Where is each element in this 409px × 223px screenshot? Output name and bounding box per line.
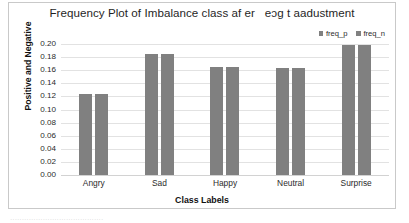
y-axis-tick-label: 0.14: [40, 79, 56, 87]
chart-frame: Frequency Plot of Imbalance class af er …: [8, 2, 396, 209]
y-axis-tick-label: 0.02: [40, 158, 56, 166]
bar-group: [61, 44, 127, 175]
bar-happy-freq_p[interactable]: [210, 67, 223, 175]
y-axis-tick-label: 0.10: [40, 105, 56, 113]
legend-entry-freq-n[interactable]: freq_n: [356, 29, 385, 38]
bar-group: [192, 44, 258, 175]
bar-angry-freq_p[interactable]: [79, 94, 92, 175]
bar-surprise-freq_p[interactable]: [342, 45, 355, 175]
x-axis-tick-label-angry: Angry: [61, 178, 127, 188]
x-axis-title: Class Labels: [9, 195, 395, 205]
bar-neutral-freq_n[interactable]: [292, 68, 305, 175]
x-axis-tick-labels: AngrySadHappyNeutralSurprise: [61, 178, 389, 188]
chart-title: Frequency Plot of Imbalance class af er …: [9, 6, 395, 19]
bar-happy-freq_n[interactable]: [226, 67, 239, 175]
cutoff-caption-text: ········································: [10, 216, 399, 221]
y-axis-tick-label: 0.12: [40, 92, 56, 100]
legend-entry-freq-p[interactable]: freq_p: [319, 29, 348, 38]
bar-neutral-freq_p[interactable]: [276, 68, 289, 175]
gridline: [61, 175, 389, 176]
x-axis-tick-label-sad: Sad: [127, 178, 193, 188]
x-axis-tick-label-neutral: Neutral: [258, 178, 324, 188]
plot-area: 0.200.180.160.140.120.100.080.060.040.02…: [61, 44, 389, 175]
bar-sad-freq_n[interactable]: [161, 54, 174, 175]
bar-group: [127, 44, 193, 175]
x-axis-tick-label-happy: Happy: [192, 178, 258, 188]
y-axis-tick-label: 0.04: [40, 145, 56, 153]
bar-sad-freq_p[interactable]: [145, 54, 158, 175]
y-axis-tick-label: 0.00: [40, 171, 56, 179]
y-axis-tick-label: 0.18: [40, 53, 56, 61]
y-axis-tick-label: 0.20: [40, 40, 56, 48]
bar-angry-freq_n[interactable]: [95, 94, 108, 175]
chart-legend: freq_p freq_n: [319, 29, 385, 38]
legend-swatch-icon: [319, 31, 324, 36]
bar-group: [258, 44, 324, 175]
bar-surprise-freq_n[interactable]: [358, 45, 371, 175]
x-axis-tick-label-surprise: Surprise: [323, 178, 389, 188]
legend-label-freq-p: freq_p: [326, 29, 348, 38]
y-axis-tick-label: 0.06: [40, 132, 56, 140]
legend-swatch-icon: [356, 31, 361, 36]
y-axis-tick-label: 0.16: [40, 66, 56, 74]
y-axis-title: Positive and Negative: [23, 7, 33, 125]
legend-label-freq-n: freq_n: [363, 29, 385, 38]
y-axis-tick-label: 0.08: [40, 119, 56, 127]
bar-group: [323, 44, 389, 175]
bars-layer: [61, 44, 389, 175]
